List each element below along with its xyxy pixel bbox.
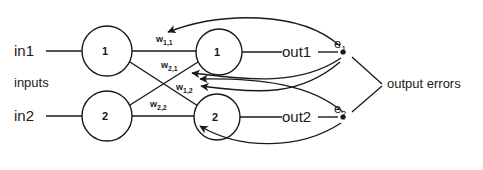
input-edges [46, 51, 83, 116]
weight-1-2-letter: w [176, 82, 183, 92]
weight-1-1-subscript: 1,1 [163, 39, 173, 46]
weight-2-2-label: w2,2 [150, 100, 167, 111]
output-node-2-label: 2 [212, 112, 218, 123]
output-label-out1: out1 [282, 44, 311, 59]
weight-1-2-label: w1,2 [176, 83, 193, 94]
input-nodes-group [82, 26, 132, 141]
inputs-group-label: inputs [14, 76, 49, 89]
backprop-arrow-e1-to-w11 [168, 18, 340, 46]
output-edges [240, 52, 282, 117]
brace-lower-arm [352, 86, 382, 112]
weight-1-2-subscript: 1,2 [183, 87, 193, 94]
weight-1-1-label: w1,1 [156, 35, 173, 46]
input-node-1-label: 1 [102, 46, 108, 57]
output-label-out2: out2 [282, 109, 311, 124]
output-node-1-label: 1 [214, 47, 220, 58]
weight-2-1-letter: w [161, 60, 168, 70]
input-label-in1: in1 [14, 43, 34, 58]
error-node-1-subscript: 1 [341, 44, 346, 54]
input-label-in2: in2 [14, 108, 34, 123]
backprop-arrows [168, 18, 343, 144]
weight-2-1-label: w2,1 [161, 61, 178, 72]
diagram-canvas: in1 in2 inputs 1 2 1 2 w1,1 w2,1 w1,2 w2… [0, 0, 483, 170]
error-node-1-label: e1 [334, 37, 346, 54]
weight-2-2-subscript: 2,2 [157, 104, 167, 111]
weight-1-1-letter: w [156, 34, 163, 44]
weight-2-1-subscript: 2,1 [168, 65, 178, 72]
output-errors-group-label: output errors [387, 77, 461, 90]
brace-upper-arm [352, 57, 382, 84]
input-node-2-label: 2 [102, 111, 108, 122]
error-brace [352, 57, 382, 112]
weight-2-2-letter: w [150, 99, 157, 109]
error-node-2-subscript: 2 [341, 109, 346, 119]
error-node-2-label: e2 [334, 102, 346, 119]
